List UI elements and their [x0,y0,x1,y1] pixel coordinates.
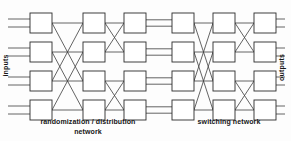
switch-node[interactable] [83,100,105,120]
switch-node[interactable] [30,42,52,62]
switch-node[interactable] [213,13,235,33]
switch-node[interactable] [83,42,105,62]
switch-node[interactable] [254,13,276,33]
switch-node[interactable] [213,71,235,91]
switch-node[interactable] [30,13,52,33]
switch-node[interactable] [172,71,194,91]
switch-node[interactable] [213,100,235,120]
switch-node[interactable] [172,42,194,62]
inputs-axis-label: inputs [2,54,9,76]
switch-node[interactable] [213,42,235,62]
switch-node[interactable] [254,42,276,62]
switch-node[interactable] [83,71,105,91]
switch-node[interactable] [124,42,146,62]
switch-node[interactable] [124,100,146,120]
switch-node[interactable] [254,100,276,120]
switch-node[interactable] [124,13,146,33]
switch-node[interactable] [172,13,194,33]
randomization-network-caption-line2: network [33,128,143,135]
switch-node[interactable] [124,71,146,91]
randomization-network-caption-line1: randomization / distribution [33,118,143,125]
switch-node[interactable] [83,13,105,33]
switch-node[interactable] [30,100,52,120]
switch-node[interactable] [30,71,52,91]
switching-network-caption: switching network [176,118,282,125]
figure-root: inputs outputs randomization / distribut… [0,0,291,141]
switch-node[interactable] [254,71,276,91]
outputs-axis-label: outputs [278,54,285,81]
switch-node[interactable] [172,100,194,120]
